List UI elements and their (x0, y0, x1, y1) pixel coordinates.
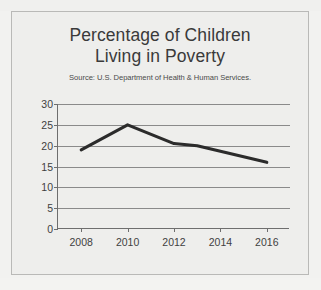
chart-source-note: Source: U.S. Department of Health & Huma… (12, 73, 308, 82)
y-axis-tick-label: 25 (41, 119, 53, 131)
y-axis-tick-label: 0 (47, 223, 53, 235)
plot-area: 302520151050 20082010201220142016 (57, 104, 289, 229)
chart-title-line-1: Percentage of Children (12, 25, 308, 46)
x-axis-tick-label: 2010 (116, 236, 139, 248)
y-axis-tick-label: 5 (47, 202, 53, 214)
y-axis-tick-label: 30 (41, 98, 53, 110)
x-axis-tick-label: 2014 (209, 236, 232, 248)
data-series-line (58, 104, 290, 229)
x-axis-tick-label: 2008 (70, 236, 93, 248)
plot-wrapper: 302520151050 20082010201220142016 (57, 104, 289, 229)
chart-figure: Percentage of Children Living in Poverty… (11, 11, 309, 275)
scan-artifact-bottom (0, 278, 321, 290)
x-axis-tick-label: 2012 (162, 236, 185, 248)
y-axis-tick-label: 20 (41, 140, 53, 152)
y-axis-tick-label: 15 (41, 161, 53, 173)
chart-title: Percentage of Children Living in Poverty (12, 25, 308, 67)
chart-title-line-2: Living in Poverty (12, 46, 308, 67)
y-axis-tick-label: 10 (41, 181, 53, 193)
scan-artifact-top (0, 0, 321, 11)
y-axis-tick-mark (54, 229, 58, 230)
x-axis-tick-label: 2016 (255, 236, 278, 248)
